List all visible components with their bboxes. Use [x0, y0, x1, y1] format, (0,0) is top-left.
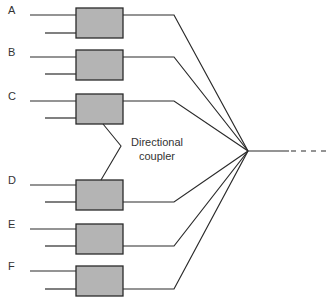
channel-label-f: F	[8, 261, 15, 272]
coupler-box	[76, 94, 123, 124]
output-fiber-line	[123, 151, 248, 246]
coupler-box	[76, 180, 123, 210]
output-fiber-line	[123, 15, 248, 151]
coupler-label-line2: coupler	[122, 149, 192, 163]
channel-label-d: D	[8, 175, 16, 186]
coupler-label-line1: Directional	[122, 135, 192, 149]
coupler-box	[76, 266, 123, 296]
coupler-box	[76, 8, 123, 38]
coupler-box	[76, 50, 123, 80]
coupler-box	[76, 224, 123, 254]
coupler-pointer-line	[101, 124, 121, 180]
channel-label-e: E	[8, 219, 15, 230]
directional-coupler-label: Directional coupler	[122, 135, 192, 163]
channel-label-a: A	[8, 5, 15, 16]
channel-label-c: C	[8, 91, 16, 102]
output-fiber-line	[123, 151, 248, 289]
channel-label-b: B	[8, 47, 15, 58]
